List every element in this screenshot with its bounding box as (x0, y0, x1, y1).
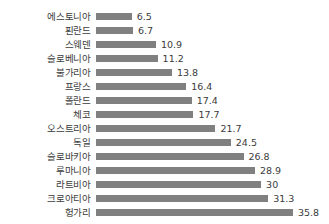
category-label: 불가리아 (0, 67, 96, 78)
category-label: 크로아티아 (0, 193, 96, 204)
value-label: 13.8 (177, 67, 198, 78)
bar (96, 41, 156, 48)
bar-track: 17.4 (96, 93, 329, 107)
bar-track: 28.9 (96, 163, 329, 177)
category-label: 독일 (0, 137, 96, 148)
bar (96, 195, 268, 202)
value-label: 35.8 (298, 207, 319, 218)
bar (96, 181, 261, 188)
bar (96, 97, 192, 104)
bar-row: 독일24.5 (0, 135, 329, 149)
bar-track: 24.5 (96, 135, 329, 149)
value-label: 21.7 (220, 123, 241, 134)
bar-track: 6.7 (96, 23, 329, 37)
bar (96, 69, 172, 76)
bar-track: 35.8 (96, 205, 329, 219)
value-label: 10.9 (161, 39, 182, 50)
value-label: 17.7 (198, 109, 219, 120)
value-label: 11.2 (163, 53, 184, 64)
category-label: 스웨덴 (0, 39, 96, 50)
value-label: 6.7 (138, 25, 153, 36)
bar-row: 슬로바키아26.8 (0, 149, 329, 163)
bar (96, 139, 231, 146)
bar-row: 핀란드6.7 (0, 23, 329, 37)
bar-row: 프랑스16.4 (0, 79, 329, 93)
bar-row: 오스트리아21.7 (0, 121, 329, 135)
bar-track: 11.2 (96, 51, 329, 65)
horizontal-bar-chart: 에스토니아6.5핀란드6.7스웨덴10.9슬로베니아11.2불가리아13.8프랑… (0, 0, 329, 224)
category-label: 폴란드 (0, 95, 96, 106)
category-label: 체코 (0, 109, 96, 120)
value-label: 26.8 (249, 151, 270, 162)
bar (96, 55, 158, 62)
bar (96, 125, 215, 132)
bar-track: 16.4 (96, 79, 329, 93)
bar-row: 스웨덴10.9 (0, 37, 329, 51)
bar-track: 31.3 (96, 191, 329, 205)
category-label: 헝가리 (0, 207, 96, 218)
category-label: 라트비아 (0, 179, 96, 190)
bar (96, 167, 255, 174)
value-label: 17.4 (197, 95, 218, 106)
bar-row: 폴란드17.4 (0, 93, 329, 107)
category-label: 핀란드 (0, 25, 96, 36)
bar-track: 10.9 (96, 37, 329, 51)
bar-track: 6.5 (96, 9, 329, 23)
value-label: 28.9 (260, 165, 281, 176)
category-label: 슬로바키아 (0, 151, 96, 162)
bar-row: 슬로베니아11.2 (0, 51, 329, 65)
bar (96, 209, 293, 216)
bar (96, 13, 132, 20)
bar-row: 헝가리35.8 (0, 205, 329, 219)
value-label: 16.4 (191, 81, 212, 92)
bar (96, 111, 193, 118)
bar (96, 153, 244, 160)
bar-track: 26.8 (96, 149, 329, 163)
bar-row: 불가리아13.8 (0, 65, 329, 79)
bar-track: 21.7 (96, 121, 329, 135)
category-label: 슬로베니아 (0, 53, 96, 64)
value-label: 24.5 (236, 137, 257, 148)
bar-track: 30 (96, 177, 329, 191)
bar-row: 크로아티아31.3 (0, 191, 329, 205)
bar-row: 에스토니아6.5 (0, 9, 329, 23)
category-label: 루마니아 (0, 165, 96, 176)
chart-rows: 에스토니아6.5핀란드6.7스웨덴10.9슬로베니아11.2불가리아13.8프랑… (0, 9, 329, 219)
value-label: 31.3 (273, 193, 294, 204)
bar-track: 13.8 (96, 65, 329, 79)
bar-row: 체코17.7 (0, 107, 329, 121)
bar (96, 83, 186, 90)
category-label: 오스트리아 (0, 123, 96, 134)
category-label: 프랑스 (0, 81, 96, 92)
bar-track: 17.7 (96, 107, 329, 121)
bar-row: 라트비아30 (0, 177, 329, 191)
bar (96, 27, 133, 34)
value-label: 30 (266, 179, 278, 190)
bar-row: 루마니아28.9 (0, 163, 329, 177)
category-label: 에스토니아 (0, 11, 96, 22)
value-label: 6.5 (137, 11, 152, 22)
